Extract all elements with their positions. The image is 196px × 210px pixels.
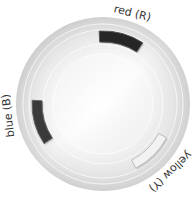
radial-arc-chart: red (R)blue (B)yellow (Y) [0, 0, 196, 210]
label-blue: blue (B) [0, 93, 17, 138]
